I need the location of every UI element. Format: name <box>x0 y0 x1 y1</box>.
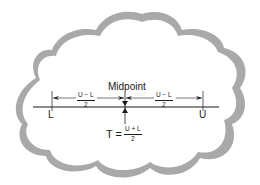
fraction-denominator: 2 <box>84 101 88 109</box>
left-half-width-fraction: U − L 2 <box>77 92 95 108</box>
fraction-denominator: 2 <box>162 101 166 109</box>
lower-limit-label: L <box>48 110 54 120</box>
fraction-numerator: U + L <box>124 126 142 135</box>
fraction-numerator: U − L <box>155 92 173 101</box>
target-formula-fraction: U + L 2 <box>124 126 142 142</box>
target-formula: T = U + L 2 <box>106 126 142 142</box>
midpoint-diagram: Midpoint U − L 2 U − L 2 L U T = U + L 2 <box>0 0 260 185</box>
target-formula-lhs: T = <box>106 128 122 140</box>
right-half-width-fraction: U − L 2 <box>155 92 173 108</box>
fraction-numerator: U − L <box>77 92 95 101</box>
midpoint-up-arrow-icon <box>122 108 128 113</box>
midpoint-title: Midpoint <box>108 82 146 92</box>
cloud-outline-icon <box>16 12 246 178</box>
fraction-denominator: 2 <box>131 135 135 143</box>
midpoint-down-arrow-icon <box>122 101 128 106</box>
diagram-canvas <box>0 0 260 185</box>
upper-limit-label: U <box>199 110 206 120</box>
